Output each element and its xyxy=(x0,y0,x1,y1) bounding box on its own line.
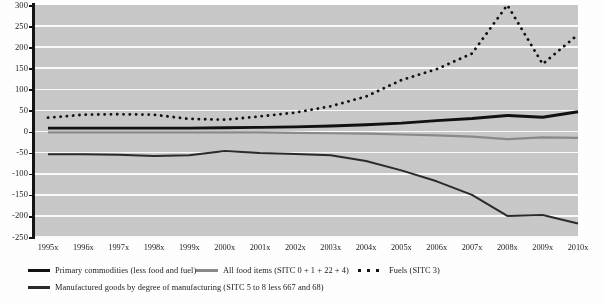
legend-label: All food items (SITC 0 + 1 + 22 + 4) xyxy=(223,266,349,275)
y-axis-tick xyxy=(29,68,34,70)
y-axis-tick xyxy=(29,47,34,49)
chart-page: 300250200150100500-50-100-150-200-250 19… xyxy=(0,0,606,304)
y-axis-line xyxy=(32,3,35,239)
y-axis-labels: 300250200150100500-50-100-150-200-250 xyxy=(0,0,31,242)
x-axis-tick-label: 2009x xyxy=(532,243,553,252)
line-swatch-icon xyxy=(196,269,218,272)
x-axis-labels: 1995x1996x1997x1998x1999x2000x2001x2002x… xyxy=(33,243,578,257)
y-axis-tick xyxy=(29,26,34,28)
x-axis-tick-label: 2010x xyxy=(568,243,589,252)
y-axis-tick-label: 50 xyxy=(19,106,28,115)
x-axis-tick-label: 2000x xyxy=(214,243,235,252)
x-axis-tick-label: 1999x xyxy=(179,243,200,252)
dotted-line-swatch-icon xyxy=(358,269,384,273)
legend-item-all-food-items[interactable]: All food items (SITC 0 + 1 + 22 + 4) xyxy=(196,262,349,279)
legend-label: Fuels (SITC 3) xyxy=(389,266,440,275)
x-axis-tick-label: 2007x xyxy=(462,243,483,252)
x-axis-tick-label: 2006x xyxy=(426,243,447,252)
y-axis-tick xyxy=(29,132,34,134)
y-axis-tick-label: -150 xyxy=(12,190,28,199)
x-axis-tick-label: 1996x xyxy=(73,243,94,252)
y-axis-tick-label: -100 xyxy=(12,169,28,178)
legend-item-fuels[interactable]: Fuels (SITC 3) xyxy=(358,262,440,279)
y-axis-tick-label: -200 xyxy=(12,211,28,220)
legend-item-manufactured-goods[interactable]: Manufactured goods by degree of manufact… xyxy=(28,279,324,296)
y-axis-tick xyxy=(29,195,34,197)
series-line xyxy=(48,112,578,128)
y-axis-tick-label: -50 xyxy=(16,148,28,157)
y-axis-tick xyxy=(29,89,34,91)
x-axis-tick-label: 2001x xyxy=(250,243,271,252)
series-line xyxy=(48,151,578,224)
x-axis-tick-label: 1998x xyxy=(144,243,165,252)
legend-row-2: Manufactured goods by degree of manufact… xyxy=(0,279,606,296)
x-axis-tick-label: 1997x xyxy=(108,243,129,252)
series-line xyxy=(48,5,578,120)
line-swatch-icon xyxy=(28,286,50,288)
y-axis-tick xyxy=(29,216,34,218)
x-axis-tick-label: 2002x xyxy=(285,243,306,252)
x-axis-tick-label: 2008x xyxy=(497,243,518,252)
y-axis-tick-label: 150 xyxy=(15,64,28,73)
y-axis-tick-label: 100 xyxy=(15,85,28,94)
plot-area xyxy=(33,5,578,237)
x-axis-tick-label: 2003x xyxy=(320,243,341,252)
series-layer xyxy=(33,5,578,237)
y-axis-tick xyxy=(29,174,34,176)
legend-row-1: Primary commodities (less food and fuel)… xyxy=(0,262,606,279)
y-axis-tick xyxy=(29,5,34,7)
x-axis-tick-label: 2004x xyxy=(356,243,377,252)
x-axis-tick-label: 1995x xyxy=(38,243,59,252)
y-axis-tick-label: 0 xyxy=(24,127,28,136)
legend: Primary commodities (less food and fuel)… xyxy=(0,262,606,302)
y-axis-tick xyxy=(29,237,34,239)
x-axis-tick-label: 2005x xyxy=(391,243,412,252)
y-axis-tick xyxy=(29,153,34,155)
y-axis-tick-label: -250 xyxy=(12,233,28,242)
legend-label: Manufactured goods by degree of manufact… xyxy=(55,283,324,292)
y-axis-tick-label: 250 xyxy=(15,22,28,31)
y-axis-tick-label: 300 xyxy=(15,1,28,10)
legend-label: Primary commodities (less food and fuel) xyxy=(55,266,196,275)
series-line xyxy=(48,132,578,139)
y-axis-tick xyxy=(29,110,34,112)
y-axis-tick-label: 200 xyxy=(15,43,28,52)
legend-item-primary-commodities[interactable]: Primary commodities (less food and fuel) xyxy=(28,262,196,279)
line-swatch-icon xyxy=(28,269,50,272)
